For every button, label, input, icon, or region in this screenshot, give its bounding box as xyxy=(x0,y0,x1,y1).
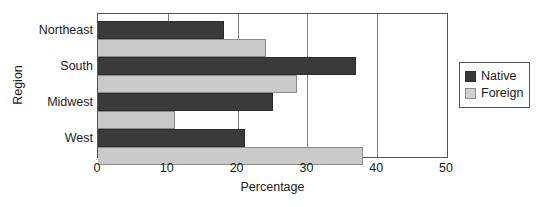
bar-chart-figure: Region Northeast South Midwest West 0 10… xyxy=(0,0,540,207)
bar-northeast-foreign xyxy=(98,39,266,57)
y-tick-south: South xyxy=(7,59,93,73)
gridline-30 xyxy=(307,14,308,157)
chart-legend: Native Foreign xyxy=(459,62,530,108)
legend-item-native: Native xyxy=(465,68,523,85)
x-tick-0: 0 xyxy=(77,161,117,175)
bar-midwest-foreign xyxy=(98,111,175,129)
plot-area xyxy=(97,13,448,158)
x-axis-title: Percentage xyxy=(97,180,448,194)
y-tick-west: West xyxy=(7,131,93,145)
y-tick-northeast: Northeast xyxy=(7,23,93,37)
legend-item-foreign: Foreign xyxy=(465,85,523,102)
legend-swatch-native-icon xyxy=(465,71,476,82)
bar-south-foreign xyxy=(98,75,297,93)
bar-west-native xyxy=(98,129,245,147)
bar-south-native xyxy=(98,57,356,75)
bar-midwest-native xyxy=(98,93,273,111)
x-tick-10: 10 xyxy=(147,161,187,175)
gridline-40 xyxy=(377,14,378,157)
x-tick-30: 30 xyxy=(286,161,326,175)
x-tick-20: 20 xyxy=(217,161,257,175)
x-tick-50: 50 xyxy=(426,161,466,175)
bar-northeast-native xyxy=(98,21,224,39)
y-tick-midwest: Midwest xyxy=(7,95,93,109)
x-tick-40: 40 xyxy=(356,161,396,175)
legend-label-native: Native xyxy=(481,70,516,83)
legend-label-foreign: Foreign xyxy=(481,87,523,100)
y-axis-tick-labels: Northeast South Midwest West xyxy=(5,13,93,158)
legend-swatch-foreign-icon xyxy=(465,88,476,99)
